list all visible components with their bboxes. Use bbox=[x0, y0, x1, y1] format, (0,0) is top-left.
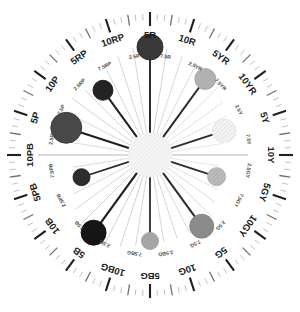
hue-marker bbox=[195, 68, 216, 89]
hue-marker bbox=[142, 233, 159, 250]
hue-wheel-canvas: 7.5R2.5YR7.5YR2.5Y7.5Y2.5GY7.5GY2.5G7.5G… bbox=[0, 0, 300, 312]
hue-wheel-figure: 7.5R2.5YR7.5YR2.5Y7.5Y2.5GY7.5GY2.5G7.5G… bbox=[0, 0, 300, 312]
major-hue-label: 10Y bbox=[266, 147, 277, 165]
major-hue-label: 5BG bbox=[140, 271, 160, 282]
fine-tick bbox=[284, 169, 290, 170]
hue-marker bbox=[212, 119, 236, 143]
fine-tick bbox=[135, 15, 136, 21]
wheel-hub bbox=[128, 133, 172, 177]
hue-marker bbox=[73, 169, 90, 186]
fine-tick bbox=[164, 289, 165, 295]
hue-marker bbox=[93, 80, 113, 100]
hub-disc bbox=[128, 133, 172, 177]
fine-tick bbox=[164, 15, 165, 21]
fine-tick bbox=[135, 289, 136, 295]
hue-marker bbox=[208, 168, 226, 186]
hue-marker bbox=[190, 214, 214, 238]
major-hue-label: 5R bbox=[144, 29, 156, 40]
major-hue-label: 10PB bbox=[24, 143, 35, 167]
fine-tick bbox=[10, 169, 16, 170]
fine-tick bbox=[10, 140, 16, 141]
fine-tick bbox=[284, 140, 290, 141]
hue-marker bbox=[51, 112, 82, 143]
